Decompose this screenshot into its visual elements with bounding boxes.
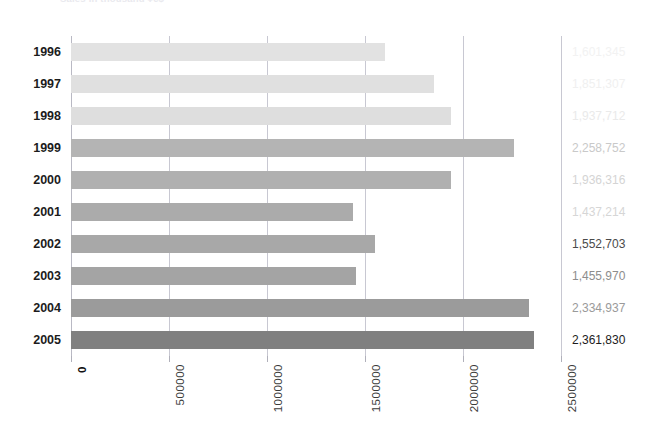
year-label-1997: 1997 <box>0 68 61 100</box>
value-label-1997: 1,851,307 <box>572 68 664 100</box>
bar-1999 <box>71 139 514 157</box>
bar-1998 <box>71 107 451 125</box>
bar-1996 <box>71 43 385 61</box>
bar-row <box>71 196 561 228</box>
bar-row <box>71 164 561 196</box>
year-label-2005: 2005 <box>0 324 61 356</box>
year-label-2001: 2001 <box>0 196 61 228</box>
chart-title: Sales in thousand ¥€$ <box>60 0 360 5</box>
value-label-2000: 1,936,316 <box>572 164 664 196</box>
gridline-2500000 <box>561 36 562 356</box>
bar-1997 <box>71 75 434 93</box>
bar-2001 <box>71 203 353 221</box>
tick-mark-2000000 <box>463 356 464 362</box>
bar-row <box>71 36 561 68</box>
bar-2004 <box>71 299 529 317</box>
tick-mark-1000000 <box>267 356 268 362</box>
tick-mark-1500000 <box>365 356 366 362</box>
value-label-2004: 2,334,937 <box>572 292 664 324</box>
bar-row <box>71 100 561 132</box>
bar-row <box>71 68 561 100</box>
bar-2003 <box>71 267 356 285</box>
value-label-1998: 1,937,712 <box>572 100 664 132</box>
year-label-2003: 2003 <box>0 260 61 292</box>
tick-label-2500000: 2500000 <box>566 364 578 412</box>
year-label-1999: 1999 <box>0 132 61 164</box>
tick-mark-2500000 <box>561 356 562 362</box>
value-label-2003: 1,455,970 <box>572 260 664 292</box>
tick-mark-500000 <box>169 356 170 362</box>
bar-row <box>71 292 561 324</box>
bar-row <box>71 324 561 356</box>
x-axis: 05000001000000150000020000002500000 <box>71 356 561 448</box>
bar-2000 <box>71 171 451 189</box>
year-label-2000: 2000 <box>0 164 61 196</box>
value-label-1999: 2,258,752 <box>572 132 664 164</box>
tick-label-0: 0 <box>76 366 88 373</box>
value-label-2005: 2,361,830 <box>572 324 664 356</box>
tick-label-500000: 500000 <box>174 364 186 405</box>
bar-row <box>71 260 561 292</box>
tick-label-1500000: 1500000 <box>370 364 382 412</box>
year-label-2002: 2002 <box>0 228 61 260</box>
bar-2002 <box>71 235 375 253</box>
year-label-1998: 1998 <box>0 100 61 132</box>
bar-2005 <box>71 331 534 349</box>
value-label-1996: 1,601,345 <box>572 36 664 68</box>
tick-mark-0 <box>71 356 72 362</box>
value-label-2002: 1,552,703 <box>572 228 664 260</box>
bar-row <box>71 132 561 164</box>
tick-label-1000000: 1000000 <box>272 364 284 412</box>
tick-label-2000000: 2000000 <box>468 364 480 412</box>
value-label-2001: 1,437,214 <box>572 196 664 228</box>
year-label-1996: 1996 <box>0 36 61 68</box>
bar-row <box>71 228 561 260</box>
bar-chart: Sales in thousand ¥€$ 199619971998199920… <box>0 0 668 448</box>
plot-area <box>71 36 561 356</box>
year-label-2004: 2004 <box>0 292 61 324</box>
